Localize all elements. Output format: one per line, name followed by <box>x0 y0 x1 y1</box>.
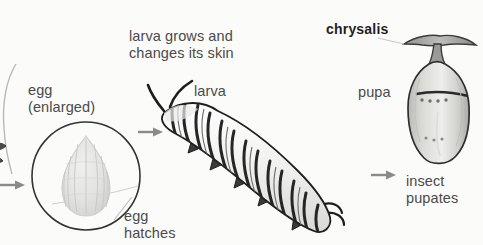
egg-hatches-leader-line <box>112 196 136 222</box>
label-pupa-text: pupa <box>358 84 391 100</box>
chrysalis-leader-line <box>378 36 406 46</box>
life-cycle-diagram: egg (enlarged) egg hatches <box>0 0 483 245</box>
striped-caterpillar-art <box>148 85 358 245</box>
arrow-larva-to-pupa <box>371 168 399 182</box>
label-larva: larva <box>194 83 226 100</box>
label-larva-grows: larva grows and changes its skin <box>129 28 234 62</box>
partial-butterfly-fragment-art <box>0 62 32 177</box>
chrysalis-art <box>398 34 482 166</box>
label-egg-enlarged-text: egg (enlarged) <box>28 82 95 115</box>
label-larva-grows-text: larva grows and changes its skin <box>129 28 234 61</box>
label-larva-text: larva <box>194 83 226 99</box>
label-insect-pupates: insect pupates <box>406 173 458 207</box>
label-pupa: pupa <box>358 84 391 101</box>
arrow-into-egg <box>0 178 28 192</box>
label-egg-enlarged: egg (enlarged) <box>28 82 95 116</box>
label-chrysalis-text: chrysalis <box>326 21 389 37</box>
label-insect-pupates-text: insect pupates <box>406 173 458 206</box>
